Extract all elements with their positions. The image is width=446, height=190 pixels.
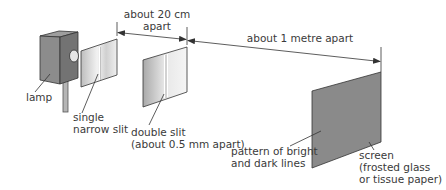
label-distance-1-line1: about 20 cm	[124, 8, 190, 20]
single-slit-panel	[81, 39, 117, 87]
double-slit-panel	[143, 47, 187, 107]
lamp-lens-icon	[70, 50, 79, 62]
lamp-front-face	[40, 36, 60, 84]
label-screen-1: screen	[359, 149, 394, 161]
label-pattern-2: and dark lines	[231, 157, 305, 169]
label-single-slit-2: narrow slit	[73, 123, 128, 135]
label-distance-1-line2: apart	[143, 20, 171, 32]
double-slit-diagram: lamp single narrow slit about 20 cm apar…	[0, 0, 446, 190]
label-lamp: lamp	[26, 91, 53, 103]
lamp-stand	[63, 80, 68, 112]
label-distance-2: about 1 metre apart	[247, 32, 353, 44]
label-screen-3: or tissue paper)	[359, 173, 442, 185]
arrow-20cm	[118, 33, 186, 40]
label-single-slit-1: single	[73, 111, 104, 123]
label-screen-2: (frosted glass	[359, 161, 430, 173]
label-double-slit-2: (about 0.5 mm apart)	[131, 138, 245, 150]
label-double-slit-1: double slit	[131, 126, 186, 138]
label-pattern-1: pattern of bright	[231, 145, 318, 157]
